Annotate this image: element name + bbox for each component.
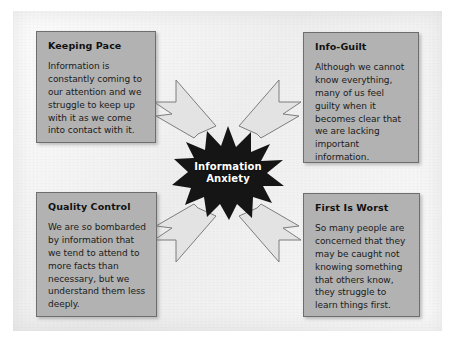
central-starburst: Information Anxiety xyxy=(172,126,284,220)
concept-box-first-is-worst: First Is Worst So many people are concer… xyxy=(303,193,420,317)
starburst-label-line2: Anxiety xyxy=(206,173,250,185)
concept-box-title: Quality Control xyxy=(48,202,146,212)
concept-box-title: First Is Worst xyxy=(315,203,409,213)
concept-box-info-guilt: Info-Guilt Although we cannot know every… xyxy=(303,32,419,163)
concept-box-body: Information is constantly coming to our … xyxy=(48,60,145,137)
information-anxiety-diagram: Keeping Pace Information is constantly c… xyxy=(0,0,455,342)
concept-box-quality-control: Quality Control We are so bombarded by i… xyxy=(36,192,157,317)
starburst-label: Information Anxiety xyxy=(172,126,284,220)
concept-box-title: Keeping Pace xyxy=(48,41,145,51)
concept-box-body: So many people are concerned that they m… xyxy=(315,222,409,311)
concept-box-title: Info-Guilt xyxy=(315,42,408,52)
concept-box-body: We are so bombarded by information that … xyxy=(48,221,146,310)
concept-box-body: Although we cannot know everything, many… xyxy=(315,61,408,163)
starburst-label-line1: Information xyxy=(194,161,261,173)
concept-box-keeping-pace: Keeping Pace Information is constantly c… xyxy=(36,31,156,143)
